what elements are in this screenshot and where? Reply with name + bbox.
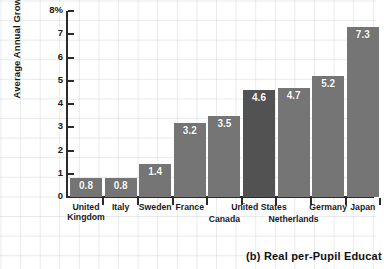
x-axis-category-united-states: United States xyxy=(223,202,295,212)
bar-sweden[interactable]: 1.4 xyxy=(139,164,171,197)
bar-value-label: 5.2 xyxy=(312,78,344,89)
bar-value-label: 3.5 xyxy=(208,118,240,129)
bar-canada[interactable]: 3.5 xyxy=(208,116,240,197)
bar-netherlands[interactable]: 4.7 xyxy=(278,88,310,197)
figure-caption: (b) Real per-Pupil Educat xyxy=(246,250,382,262)
bar-united-states[interactable]: 4.6 xyxy=(243,90,275,197)
x-axis-category-line: Netherlands xyxy=(258,214,330,224)
x-axis-category-netherlands: Netherlands xyxy=(258,214,330,224)
x-axis-category-france: France xyxy=(154,202,226,212)
bar-france[interactable]: 3.2 xyxy=(174,123,206,197)
x-axis-category-line: Canada xyxy=(188,214,260,224)
bar-value-label: 0.8 xyxy=(105,180,137,191)
bar-japan[interactable]: 7.3 xyxy=(347,27,379,197)
bar-value-label: 0.8 xyxy=(70,180,102,191)
x-axis-category-canada: Canada xyxy=(188,214,260,224)
bar-united-kingdom[interactable]: 0.8 xyxy=(70,178,102,197)
bar-value-label: 4.7 xyxy=(278,90,310,101)
x-axis-category-line: Japan xyxy=(327,202,387,212)
x-axis-category-japan: Japan xyxy=(327,202,387,212)
bar-value-label: 3.2 xyxy=(174,125,206,136)
x-axis-category-line: France xyxy=(154,202,226,212)
bar-value-label: 4.6 xyxy=(243,92,275,103)
bar-value-label: 7.3 xyxy=(347,29,379,40)
x-axis-category-line: Kingdom xyxy=(50,212,122,222)
bar-germany[interactable]: 5.2 xyxy=(312,76,344,197)
x-axis-category-line: United States xyxy=(223,202,295,212)
bar-value-label: 1.4 xyxy=(139,166,171,177)
bar-italy[interactable]: 0.8 xyxy=(105,178,137,197)
